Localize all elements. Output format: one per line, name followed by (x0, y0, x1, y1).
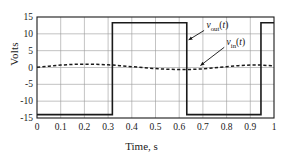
series-label-vout: vout(t) (206, 20, 228, 32)
vout-callout-arrow (189, 30, 204, 39)
x-tick-label: 0.6 (173, 122, 185, 132)
x-tick-label: 0.9 (244, 122, 256, 132)
x-tick-label: 1 (272, 122, 277, 132)
x-tick-label: 0 (35, 122, 40, 132)
y-tick-label: 10 (11, 29, 33, 39)
chart-svg (0, 0, 283, 160)
y-tick-label: -10 (11, 96, 33, 106)
figure: Volts Time, s 00.10.20.30.40.50.60.70.80… (0, 0, 283, 160)
y-tick-label: -15 (11, 113, 33, 123)
x-tick-label: 0.8 (221, 122, 233, 132)
x-tick-label: 0.5 (150, 122, 162, 132)
y-tick-label: -5 (11, 79, 33, 89)
annotation-layer (189, 30, 225, 65)
x-tick-label: 0.4 (126, 122, 138, 132)
y-tick-label: 15 (11, 12, 33, 22)
x-tick-label: 0.1 (55, 122, 67, 132)
grid-layer (37, 17, 274, 118)
x-tick-label: 0.2 (78, 122, 90, 132)
series-label-vin: vin(t) (227, 37, 246, 49)
x-tick-label: 0.7 (197, 122, 209, 132)
y-tick-label: 5 (11, 46, 33, 56)
vin-callout-arrow (201, 47, 225, 65)
x-tick-label: 0.3 (102, 122, 114, 132)
y-tick-label: 0 (11, 63, 33, 73)
